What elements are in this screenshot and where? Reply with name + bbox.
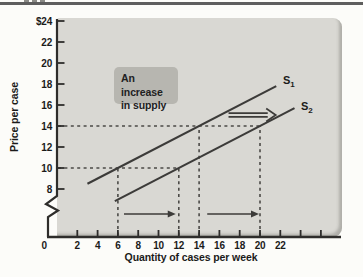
series-label-s2-sub: 2 [308,106,312,115]
series-label-s2: S2 [301,100,313,115]
x-tick-label-18: 18 [230,240,250,251]
x-axis-title: Quantity of cases per week [57,252,325,263]
series-label-s1: S1 [283,74,295,89]
x-tick-label-2: 2 [67,240,87,251]
y-axis-title: Price per case [9,82,20,152]
x-tick-label-8: 8 [128,240,148,251]
x-tick-label-16: 16 [209,240,229,251]
y-tick-label-16: 16 [18,100,52,111]
y-tick-label-8: 8 [18,184,52,195]
x-tick-label-12: 12 [169,240,189,251]
y-tick-label-24: $24 [18,16,52,27]
quantity-shift-arrow-head-2 [251,210,259,217]
y-tick-label-22: 22 [18,37,52,48]
x-tick-label-22: 22 [270,240,290,251]
y-tick-label-12: 12 [18,142,52,153]
x-tick-label-14: 14 [189,240,209,251]
x-tick-label-4: 4 [88,240,108,251]
x-tick-label-10: 10 [149,240,169,251]
x-tick-label-6: 6 [108,240,128,251]
y-tick-label-20: 20 [18,58,52,69]
chart-canvas [0,0,363,277]
annotation-line-2: in supply [121,99,178,113]
x-tick-label-20: 20 [250,240,270,251]
y-tick-label-10: 10 [18,163,52,174]
origin-label: 0 [37,240,47,251]
y-tick-label-18: 18 [18,79,52,90]
series-label-s1-sub: 1 [290,80,294,89]
quantity-shift-arrow-head-1 [168,210,176,217]
y-tick-label-14: 14 [18,121,52,132]
annotation-line-1: An increase [121,72,178,99]
annotation-box: An increase in supply [114,67,178,104]
